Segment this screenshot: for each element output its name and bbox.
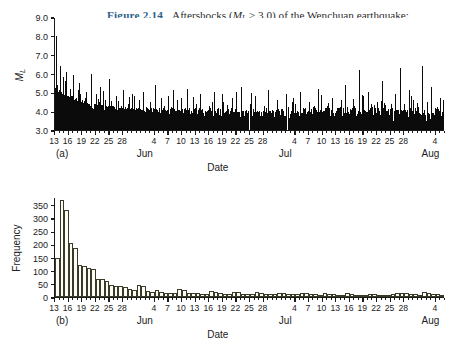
x-axis-tick: [235, 131, 236, 135]
x-axis-tick: [335, 298, 336, 302]
magnitude-stick: [271, 113, 272, 130]
x-axis-tick-label: 4: [151, 303, 156, 313]
y-axis-tick-label: 350: [33, 201, 48, 211]
x-axis-minor-tick: [254, 298, 255, 300]
y-axis-tick-label: 100: [33, 267, 48, 277]
x-axis-tick: [308, 131, 309, 135]
x-axis-minor-tick: [367, 298, 368, 300]
magnitude-stick: [182, 109, 183, 130]
x-axis-tick: [403, 298, 404, 302]
magnitude-stick: [138, 122, 139, 130]
magnitude-stick: [312, 122, 313, 130]
x-axis-minor-tick: [371, 298, 372, 300]
x-axis-tick: [335, 131, 336, 135]
x-axis-minor-tick: [367, 131, 368, 133]
x-axis-tick-label: 25: [104, 303, 114, 313]
x-axis-minor-tick: [353, 131, 354, 133]
magnitude-stick: [380, 116, 381, 130]
magnitude-stick: [82, 110, 83, 130]
x-axis-minor-tick: [149, 131, 150, 133]
panel-a-label: (a): [56, 148, 68, 159]
x-axis-tick-label: 22: [90, 303, 100, 313]
x-axis-minor-tick: [430, 131, 431, 133]
magnitude-stick: [424, 117, 425, 130]
x-axis-tick: [349, 131, 350, 135]
magnitude-stick: [137, 125, 138, 130]
y-axis-tick: [51, 218, 55, 219]
magnitude-stick: [212, 110, 213, 130]
x-axis-minor-tick: [186, 131, 187, 133]
x-axis-minor-tick: [258, 131, 259, 133]
magnitude-stick: [410, 108, 411, 130]
y-axis-tick: [51, 271, 55, 272]
y-axis-tick: [51, 284, 55, 285]
x-axis-minor-tick: [104, 131, 105, 133]
x-axis-minor-tick: [408, 131, 409, 133]
magnitude-stick: [350, 121, 351, 130]
x-axis-minor-tick: [258, 298, 259, 300]
x-axis-minor-tick: [77, 131, 78, 133]
x-axis-minor-tick: [412, 298, 413, 300]
y-axis-tick: [51, 17, 55, 18]
magnitude-stick: [346, 113, 347, 130]
x-axis-minor-tick: [217, 131, 218, 133]
magnitude-stick: [357, 122, 358, 130]
x-axis-tick-label: 28: [117, 136, 127, 146]
x-axis-minor-tick: [163, 298, 164, 300]
x-axis-minor-tick: [99, 298, 100, 300]
magnitude-stick: [112, 119, 113, 130]
x-axis-tick-label: 19: [217, 136, 227, 146]
magnitude-stick: [170, 109, 171, 130]
magnitude-stick: [242, 114, 243, 130]
y-axis-tick-label: 250: [33, 227, 48, 237]
x-axis-minor-tick: [90, 298, 91, 300]
x-axis-tick-label: 19: [358, 303, 368, 313]
x-axis-minor-tick: [176, 298, 177, 300]
x-axis-minor-tick: [63, 298, 64, 300]
x-axis-minor-tick: [299, 298, 300, 300]
magnitude-stick: [399, 116, 400, 130]
magnitude-stick: [374, 117, 375, 130]
x-axis-tick: [362, 298, 363, 302]
y-axis-tick: [51, 245, 55, 246]
x-axis-minor-tick: [317, 298, 318, 300]
y-axis-tick-label: 150: [33, 254, 48, 264]
x-axis-tick-label: 28: [398, 303, 408, 313]
x-axis-tick: [108, 298, 109, 302]
magnitude-stick: [288, 118, 289, 130]
magnitude-stick: [204, 122, 205, 130]
x-axis-tick: [122, 298, 123, 302]
magnitude-stick: [298, 113, 299, 130]
x-axis-tick: [263, 298, 264, 302]
x-axis-tick-label: 22: [231, 303, 241, 313]
magnitude-stick: [109, 122, 110, 130]
x-axis-minor-tick: [399, 131, 400, 133]
x-axis-minor-tick: [199, 131, 200, 133]
magnitude-stick: [382, 108, 383, 130]
x-axis-minor-tick: [276, 298, 277, 300]
x-axis-tick: [235, 298, 236, 302]
x-axis-tick: [362, 131, 363, 135]
magnitude-stick: [149, 110, 150, 130]
magnitude-stick: [229, 123, 230, 130]
x-axis-minor-tick: [312, 131, 313, 133]
magnitude-stick: [296, 120, 297, 130]
x-axis-minor-tick: [158, 298, 159, 300]
x-axis-minor-tick: [136, 298, 137, 300]
panel-b-y-axis-title: Frequency: [11, 224, 22, 271]
x-axis-tick: [122, 131, 123, 135]
x-axis-month-label: Jul: [279, 148, 292, 159]
x-axis-minor-tick: [331, 298, 332, 300]
magnitude-stick: [256, 117, 257, 130]
magnitude-stick: [129, 119, 130, 130]
x-axis-tick-label: 4: [292, 303, 297, 313]
panel-b-x-axis-title: Date: [207, 329, 228, 340]
magnitude-stick: [162, 119, 163, 130]
magnitude-stick: [134, 124, 135, 130]
x-axis-minor-tick: [158, 131, 159, 133]
x-axis-minor-tick: [394, 131, 395, 133]
x-axis-minor-tick: [59, 131, 60, 133]
x-axis-minor-tick: [340, 298, 341, 300]
x-axis-tick-label: 19: [76, 303, 86, 313]
magnitude-stick: [384, 122, 385, 130]
